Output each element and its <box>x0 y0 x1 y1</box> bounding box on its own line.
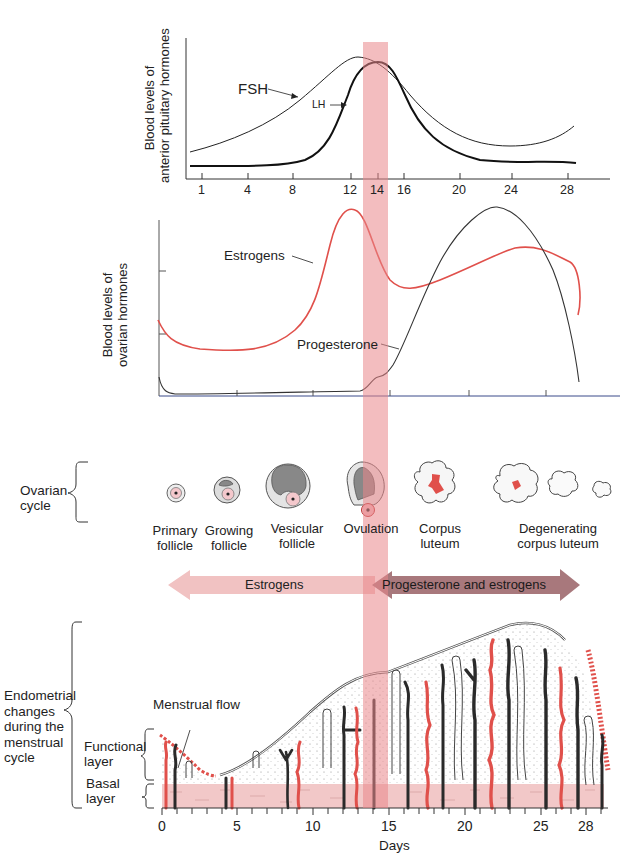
basal-layer-line2: layer <box>86 791 120 806</box>
days-axis-label: Days <box>379 838 410 853</box>
progesterone-arrow-label: Progesterone and estrogens <box>382 577 546 592</box>
endometrial-label-line3: during the <box>4 719 76 735</box>
day-tick-10: 10 <box>305 818 321 834</box>
endometrial-label-line4: menstrual <box>4 735 76 751</box>
functional-layer-line2: layer <box>84 754 146 769</box>
menstrual-flow-label: Menstrual flow <box>153 697 240 712</box>
day-tick-15: 15 <box>381 818 397 834</box>
day-tick-0: 0 <box>158 818 166 834</box>
basal-brace <box>142 784 154 808</box>
menstrual-flow-pointer <box>178 730 190 768</box>
endometrial-label-line5: cycle <box>4 750 76 766</box>
progesterone-label: Progesterone <box>297 337 378 352</box>
endometrial-label-line2: changes <box>4 704 76 720</box>
stage-ovulation-line1: Ovulation <box>336 521 406 536</box>
pituitary-tick-14: 14 <box>370 183 384 197</box>
ovulation-band <box>363 42 388 808</box>
stage-ovulation: Ovulation <box>336 521 406 536</box>
days-axis-ticks <box>162 808 601 815</box>
day-tick-20: 20 <box>457 818 473 834</box>
endometrium-svg <box>0 0 634 868</box>
endometrial-label: Endometrial changes during the menstrual… <box>4 688 76 766</box>
functional-layer-label: Functional layer <box>84 739 146 769</box>
endometrial-label-line1: Endometrial <box>4 688 76 704</box>
functional-layer-line1: Functional <box>84 739 146 754</box>
basal-layer-line1: Basal <box>86 776 120 791</box>
day-tick-25: 25 <box>533 818 549 834</box>
day-tick-28: 28 <box>578 818 594 834</box>
day-tick-5: 5 <box>233 818 241 834</box>
basal-layer-label: Basal layer <box>86 776 120 806</box>
